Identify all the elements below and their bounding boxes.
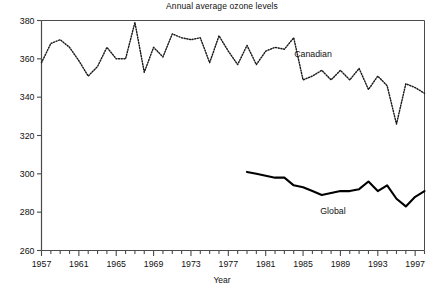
y-tick-label: 260 [20,246,35,256]
y-tick-label: 280 [20,207,35,217]
y-tick-label: 320 [20,131,35,141]
x-tick-label: 1981 [256,259,276,269]
series-global [247,172,424,207]
x-tick-label: 1973 [181,259,201,269]
x-tick-label: 1985 [293,259,313,269]
y-tick-label: 300 [20,169,35,179]
series-label-global: Global [320,206,345,216]
series-canadian [42,22,425,124]
x-tick-labels: 1957196119651969197319771981198519891993… [32,259,425,269]
x-tick-label: 1993 [368,259,388,269]
x-axis-title: Year [0,275,444,285]
x-tick-label: 1965 [106,259,126,269]
chart-figure: Annual average ozone levels 260280300320… [0,0,444,294]
x-tick-label: 1969 [144,259,164,269]
chart-plot-area: 260280300320340360380 195719611965196919… [0,0,444,294]
x-tick-label: 1997 [405,259,425,269]
series-label-canadian: Canadian [294,49,332,59]
y-tick-label: 380 [20,16,35,26]
global-line [247,172,424,207]
x-tick-label: 1957 [32,259,52,269]
y-tick-label: 340 [20,92,35,102]
y-tick-labels: 260280300320340360380 [20,16,35,256]
y-tick-label: 360 [20,54,35,64]
x-tick-label: 1989 [331,259,351,269]
x-tick-label: 1961 [69,259,89,269]
canadian-line [42,22,425,124]
x-tick-label: 1977 [219,259,239,269]
